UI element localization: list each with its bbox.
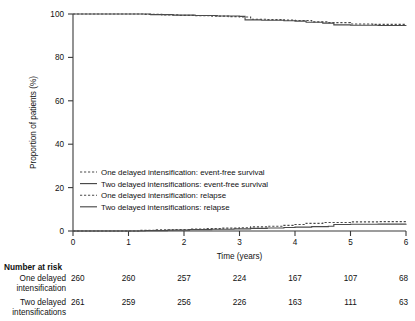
risk-row-label-1-line1: Two delayed	[20, 298, 66, 307]
curve-series-2	[73, 221, 406, 231]
risk-row-label-0-line1: One delayed	[20, 274, 67, 283]
chart-legend: One delayed intensification: event-free …	[80, 168, 268, 212]
chart-svg: 100 80 60 40 20 0 0 1 2 3 4 5 6 Time (ye…	[0, 0, 415, 321]
risk-value-r1-c0: 261	[71, 298, 85, 307]
x-axis-tick-labels: 0 1 2 3 4 5 6	[71, 238, 409, 247]
survival-chart-figure: 100 80 60 40 20 0 0 1 2 3 4 5 6 Time (ye…	[0, 0, 415, 321]
x-tick-label-3: 3	[237, 238, 242, 247]
y-axis-tick-labels: 100 80 60 40 20 0	[50, 10, 64, 236]
x-tick-label-0: 0	[71, 238, 76, 247]
x-tick-label-6: 6	[404, 238, 409, 247]
legend-label-2: One delayed intensification: relapse	[101, 191, 227, 200]
risk-table-title: Number at risk	[4, 262, 62, 272]
x-tick-label-2: 2	[182, 238, 187, 247]
risk-value-r0-c1: 260	[122, 274, 136, 283]
risk-table: One delayedintensification26026025722416…	[12, 274, 408, 317]
risk-value-r1-c4: 163	[288, 298, 302, 307]
risk-value-r0-c4: 167	[288, 274, 302, 283]
y-tick-label-60: 60	[55, 97, 65, 106]
risk-value-r1-c3: 226	[233, 298, 247, 307]
legend-label-1: Two delayed intensifications: event-free…	[101, 180, 268, 189]
x-tick-label-1: 1	[126, 238, 131, 247]
y-tick-label-40: 40	[55, 140, 65, 149]
risk-value-r0-c3: 224	[233, 274, 247, 283]
risk-value-r1-c6: 63	[399, 298, 409, 307]
x-tick-label-5: 5	[348, 238, 353, 247]
x-tick-label-4: 4	[293, 238, 298, 247]
y-tick-label-80: 80	[55, 53, 65, 62]
x-axis-title: Time (years)	[217, 252, 263, 261]
risk-row-label-1-line2: intensifications	[12, 308, 66, 317]
risk-value-r0-c2: 257	[177, 274, 191, 283]
y-tick-label-0: 0	[59, 227, 64, 236]
risk-value-r0-c5: 107	[344, 274, 358, 283]
y-axis-ticks	[68, 14, 73, 231]
x-axis-ticks	[73, 231, 406, 236]
risk-value-r1-c2: 256	[177, 298, 191, 307]
risk-value-r1-c1: 259	[122, 298, 136, 307]
risk-value-r0-c6: 68	[399, 274, 409, 283]
y-axis-title: Proportion of patients (%)	[29, 76, 38, 169]
risk-row-label-0-line2: intensification	[16, 284, 66, 293]
y-tick-label-20: 20	[55, 184, 65, 193]
risk-value-r0-c0: 260	[71, 274, 85, 283]
risk-value-r1-c5: 111	[344, 298, 357, 307]
y-tick-label-100: 100	[50, 10, 64, 19]
legend-label-3: Two delayed intensifications: relapse	[101, 203, 230, 212]
legend-label-0: One delayed intensification: event-free …	[101, 168, 265, 177]
